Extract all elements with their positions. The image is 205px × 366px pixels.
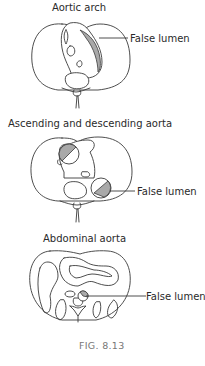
false-lumen-label-abdominal: False lumen xyxy=(146,291,205,302)
panel-title-ascending-descending: Ascending and descending aorta xyxy=(8,118,172,129)
panel-title-abdominal: Abdominal aorta xyxy=(43,233,126,244)
panel-title-aortic-arch: Aortic arch xyxy=(52,2,106,13)
abdominal-cross-section xyxy=(30,251,146,322)
false-lumen-label-arch: False lumen xyxy=(130,33,190,44)
aortic-arch-cross-section xyxy=(32,23,130,108)
ascending-descending-cross-section xyxy=(31,137,135,222)
anatomy-diagram xyxy=(0,0,205,366)
figure-caption: FIG. 8.13 xyxy=(79,340,125,351)
false-lumen-label-descending: False lumen xyxy=(137,186,197,197)
